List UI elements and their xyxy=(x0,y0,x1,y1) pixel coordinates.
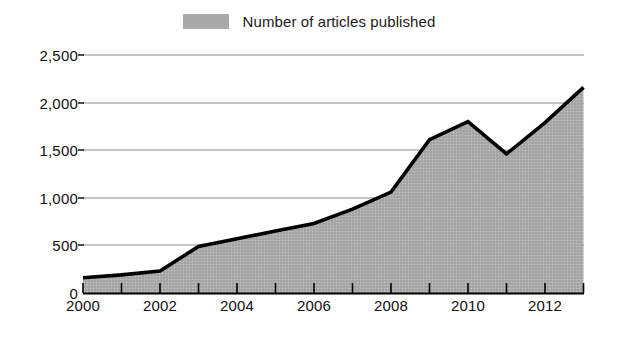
chart-container: Number of articles published xyxy=(0,0,618,338)
y-axis-ticks xyxy=(78,55,84,245)
area-series-articles xyxy=(83,87,584,293)
chart-plot-area xyxy=(0,0,618,338)
